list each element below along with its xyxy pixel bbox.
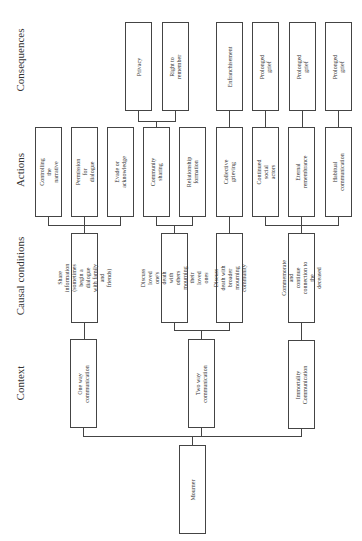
- action-habitual-communication: Habitual communication: [325, 127, 352, 217]
- root-mourner: Mourner: [179, 445, 206, 534]
- context-two-way-communication: Two way communication: [188, 339, 215, 428]
- action-evade-or-acknowledge: Evade or acknowledge: [107, 127, 134, 217]
- action-permission-for-dialogue: Permission for dialogue: [71, 127, 98, 217]
- connector: [138, 111, 139, 121]
- consequence-prolonged-grief-1: Prolonged grief: [252, 22, 279, 111]
- connector: [120, 217, 121, 225]
- context-immortality-communication: Immortality Communication: [288, 340, 315, 429]
- action-relationship-formation: Relationship formation: [179, 127, 206, 217]
- connector: [338, 111, 339, 127]
- consequence-right-to-remember: Right to remember: [162, 22, 189, 111]
- action-collective-grieving: Collective grieving: [216, 127, 243, 217]
- connector: [302, 111, 303, 127]
- connector: [338, 217, 339, 225]
- action-eternal-remembrance: Eternal remembrance: [288, 127, 315, 217]
- connector: [301, 429, 302, 436]
- connector: [201, 428, 202, 436]
- connector: [175, 111, 176, 121]
- consequence-privacy: Privacy: [125, 22, 152, 111]
- connector: [83, 428, 84, 436]
- connector: [229, 323, 230, 330]
- column-label-consequences: Consequences: [14, 29, 26, 92]
- column-label-actions: Actions: [14, 153, 26, 187]
- causal-commemorate-and-continue-connection: Commemorate and continue connection to t…: [288, 233, 315, 323]
- connector: [84, 323, 85, 339]
- column-label-context: Context: [14, 366, 26, 401]
- causal-share-information: Share information (sometimes begin a dia…: [71, 233, 98, 323]
- connector: [156, 217, 157, 225]
- connector: [192, 217, 193, 225]
- column-label-causal-conditions: Causal conditions: [14, 237, 26, 316]
- consequence-prolonged-grief-2: Prolonged grief: [289, 22, 316, 111]
- connector: [48, 225, 121, 226]
- action-controlling-the-narrative: Controlling the narrative: [35, 127, 62, 217]
- connector: [201, 330, 202, 339]
- connector: [174, 225, 175, 233]
- connector: [192, 436, 193, 445]
- connector: [265, 225, 339, 226]
- action-continued-social-actors: Continued social actors: [252, 127, 279, 217]
- causal-discuss-loved-ones-death: Discuss loved one's death with others mo…: [161, 233, 188, 323]
- connector: [229, 217, 230, 233]
- connector: [301, 323, 302, 340]
- consequence-enfranchisement: Enfranchisement: [216, 22, 243, 111]
- connector: [48, 217, 49, 225]
- connector: [229, 111, 230, 127]
- connector: [174, 330, 230, 331]
- context-one-way-communication: One way communication: [70, 339, 97, 428]
- connector: [265, 111, 266, 127]
- consequence-prolonged-grief-3: Prolonged grief: [325, 22, 352, 111]
- causal-discuss-death-broader-community: Discuss death with broader mourning comm…: [216, 233, 243, 323]
- connector: [265, 217, 266, 225]
- action-community-sharing: Community sharing: [143, 127, 170, 217]
- connector: [138, 121, 176, 122]
- connector: [174, 323, 175, 330]
